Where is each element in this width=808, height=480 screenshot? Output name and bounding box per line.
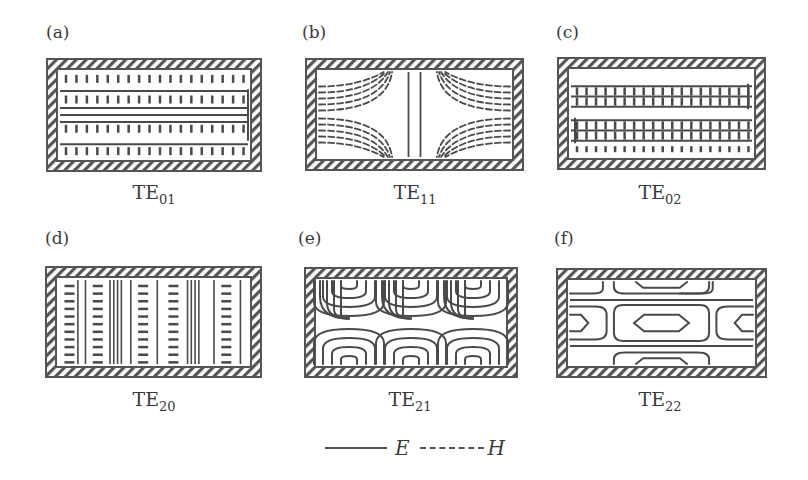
mode-indices: 22 (665, 399, 682, 414)
mode-label-d: TE20 (94, 388, 214, 414)
mode-name: TE (388, 388, 415, 410)
legend-dashed-line-icon (420, 447, 484, 449)
legend-h-label: H (488, 436, 505, 460)
mode-indices: 01 (159, 192, 176, 207)
waveguide-te20-diagram (45, 266, 262, 378)
mode-name: TE (638, 388, 665, 410)
waveguide-te02-diagram (557, 57, 766, 170)
mode-indices: 02 (665, 192, 682, 207)
mode-label-f: TE22 (600, 388, 720, 414)
waveguide-te01-diagram (46, 58, 262, 172)
mode-label-e: TE21 (350, 388, 470, 414)
mode-name: TE (393, 181, 420, 203)
waveguide-te22-diagram (556, 268, 767, 378)
legend-e-label: E (395, 436, 410, 460)
mode-indices: 21 (415, 399, 432, 414)
legend: E H (325, 436, 505, 460)
panel-label-d: (d) (45, 228, 69, 248)
panel-label-a: (a) (46, 22, 69, 42)
panel-label-b: (b) (302, 22, 326, 42)
mode-name: TE (638, 181, 665, 203)
mode-indices: 20 (159, 399, 176, 414)
mode-label-a: TE01 (94, 181, 214, 207)
mode-indices: 11 (420, 192, 437, 207)
mode-label-b: TE11 (355, 181, 475, 207)
mode-name: TE (132, 181, 159, 203)
waveguide-te11-diagram (305, 58, 524, 171)
panel-label-e: (e) (298, 228, 321, 248)
panel-label-f: (f) (554, 228, 574, 248)
waveguide-te21-diagram (304, 267, 518, 378)
panel-label-c: (c) (556, 22, 579, 42)
mode-name: TE (132, 388, 159, 410)
mode-label-c: TE02 (600, 181, 720, 207)
legend-solid-line-icon (325, 447, 387, 449)
